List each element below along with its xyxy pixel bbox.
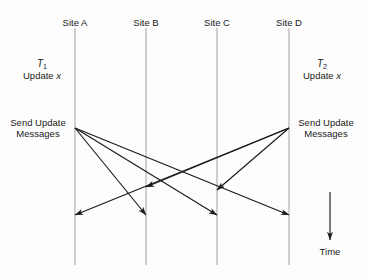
message-arrow-3: [217, 128, 289, 190]
timing-diagram: Site ASite BSite CSite D T1Update xT2Upd…: [0, 0, 367, 278]
send-update-line2: Messages: [298, 128, 353, 139]
site-label-site-c: Site C: [204, 17, 230, 28]
send-update-line1: Send Update: [298, 117, 353, 128]
transaction-name-1: T1: [23, 58, 61, 70]
transaction-operation-1: Update x: [23, 70, 61, 81]
site-lifelines-group: [75, 28, 289, 265]
transaction-label-1: T1Update x: [23, 58, 61, 81]
site-label-site-a: Site A: [63, 17, 88, 28]
send-update-line1: Send Update: [10, 117, 65, 128]
transaction-label-2: T2Update x: [303, 58, 341, 81]
time-axis-label: Time: [320, 246, 341, 257]
message-arrow-0: [75, 128, 146, 215]
send-update-label-2: Send UpdateMessages: [298, 117, 353, 139]
diagram-canvas: [0, 0, 367, 278]
site-label-site-d: Site D: [276, 17, 302, 28]
send-update-line2: Messages: [10, 128, 65, 139]
transaction-operation-2: Update x: [303, 70, 341, 81]
site-label-site-b: Site B: [133, 17, 158, 28]
transaction-name-2: T2: [303, 58, 341, 70]
send-update-label-1: Send UpdateMessages: [10, 117, 65, 139]
message-arrows-group: [75, 128, 289, 215]
